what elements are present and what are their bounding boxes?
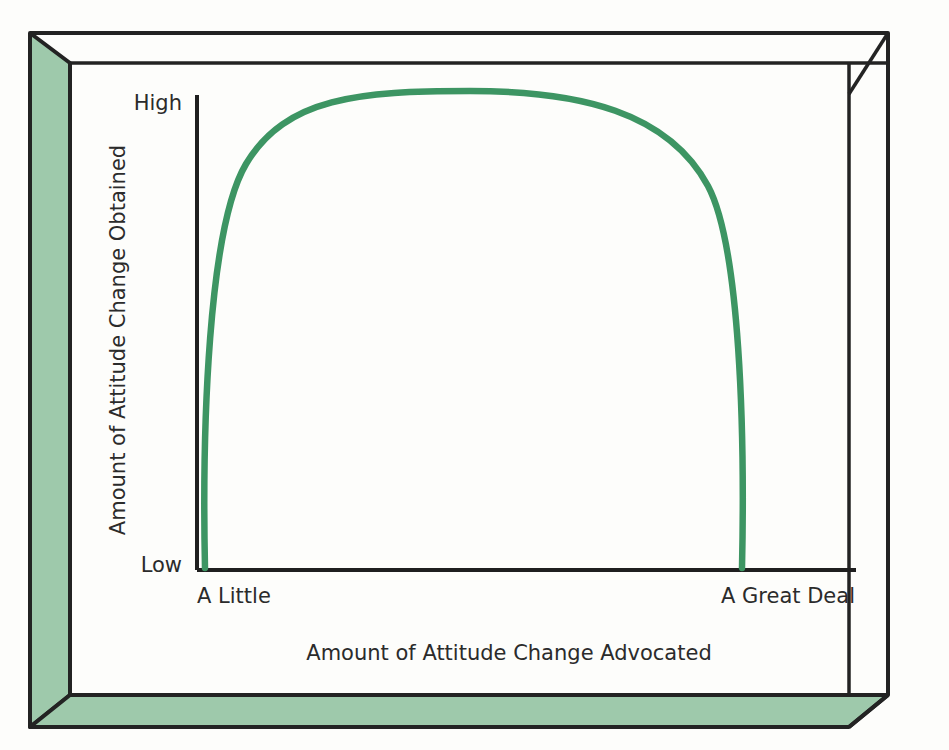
y-tick-high: High xyxy=(134,91,182,115)
figure-container: High Low A Little A Great Deal Amount of… xyxy=(0,0,949,750)
y-tick-low: Low xyxy=(141,553,182,577)
floor-panel xyxy=(30,695,888,727)
left-side-panel xyxy=(30,33,70,727)
x-axis-title: Amount of Attitude Change Advocated xyxy=(306,641,711,665)
y-axis-title: Amount of Attitude Change Obtained xyxy=(106,145,130,535)
x-tick-a-great-deal: A Great Deal xyxy=(721,584,855,608)
x-tick-a-little: A Little xyxy=(197,584,271,608)
chart-figure: High Low A Little A Great Deal Amount of… xyxy=(0,0,949,750)
